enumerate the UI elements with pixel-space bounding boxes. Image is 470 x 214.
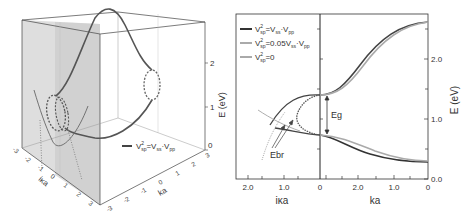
z-tick-2: 2 <box>210 59 215 68</box>
x-left-tick-1: 1.0 <box>278 183 290 192</box>
y-tick-2: 2.0 <box>431 55 443 64</box>
lower-band-dark <box>320 135 428 162</box>
branch-label: Ebr <box>270 150 284 160</box>
gap-label: Eg <box>331 110 342 120</box>
z-tick-0: 0 <box>208 141 213 150</box>
y-tick: -1 <box>139 186 148 195</box>
legend-3d: V2sp=Vss·Vpp <box>122 140 175 152</box>
figure: 0 1 2 E (eV) -3 -2 -1 0 1 2 3 iκa -3 -2 … <box>0 0 470 214</box>
legend-item-3: V2sp=0 <box>255 51 275 63</box>
imag-loop-inner <box>297 95 320 135</box>
imag-loop-right <box>144 70 160 100</box>
y-tick-0: 0.0 <box>431 175 443 184</box>
x-tick: 0 <box>49 172 57 180</box>
z-tick-1: 1 <box>210 103 215 112</box>
x-right-tick-1: 2.0 <box>352 183 364 192</box>
x-left-tick-0: 2.0 <box>242 183 254 192</box>
x-tick: 2 <box>75 190 83 198</box>
panel-3d: 0 1 2 E (eV) -3 -2 -1 0 1 2 3 iκa -3 -2 … <box>11 9 227 213</box>
y-tick: 0 <box>157 178 164 186</box>
legend-item-2: V2sp=0.05Vss·Vpp <box>255 37 310 49</box>
y-axis-label: E (eV) <box>449 86 460 114</box>
x-tick: 3 <box>87 199 95 207</box>
y-axis: -3 -2 -1 0 1 2 3 ka <box>105 151 211 213</box>
panel-2d: Eg Ebr V2sp=Vss·Vpp V2sp=0.05Vss·Vpp V2s… <box>236 14 460 206</box>
gap-arrow <box>325 96 329 134</box>
legend-2d: V2sp=Vss·Vpp V2sp=0.05Vss·Vpp V2sp=0 <box>240 23 310 63</box>
x-tick: 1 <box>62 181 70 189</box>
upper-band-dark <box>320 22 428 95</box>
y-axis-label: ka <box>157 185 169 197</box>
upper-band-light <box>320 22 428 95</box>
y-tick: 2 <box>190 160 197 168</box>
x-tick: -2 <box>23 154 32 163</box>
x-right-label: ka <box>370 195 381 206</box>
shaded-plane-inner <box>55 22 100 205</box>
y-tick: 3 <box>204 151 211 159</box>
y-tick-1: 1.0 <box>431 115 443 124</box>
z-axis-label: E (eV) <box>217 92 227 118</box>
legend-item-1: V2sp=Vss·Vpp <box>255 23 294 35</box>
x-left-tick-2: 0 <box>318 183 323 192</box>
x-axis-label: iκa <box>37 175 51 189</box>
y-tick: -3 <box>105 204 114 213</box>
x-right-tick-2: 1.0 <box>388 183 400 192</box>
z-axis: 0 1 2 E (eV) <box>205 59 227 150</box>
x-left-label: iκa <box>276 195 289 206</box>
y-tick: -2 <box>122 195 131 204</box>
lower-band-light <box>320 135 428 161</box>
legend-3d-label: V2sp=Vss·Vpp <box>136 140 175 152</box>
y-tick: 1 <box>174 169 181 177</box>
x-tick: -3 <box>11 145 20 154</box>
x-right-tick-3: 0 <box>426 183 431 192</box>
x-tick: -1 <box>36 163 45 172</box>
